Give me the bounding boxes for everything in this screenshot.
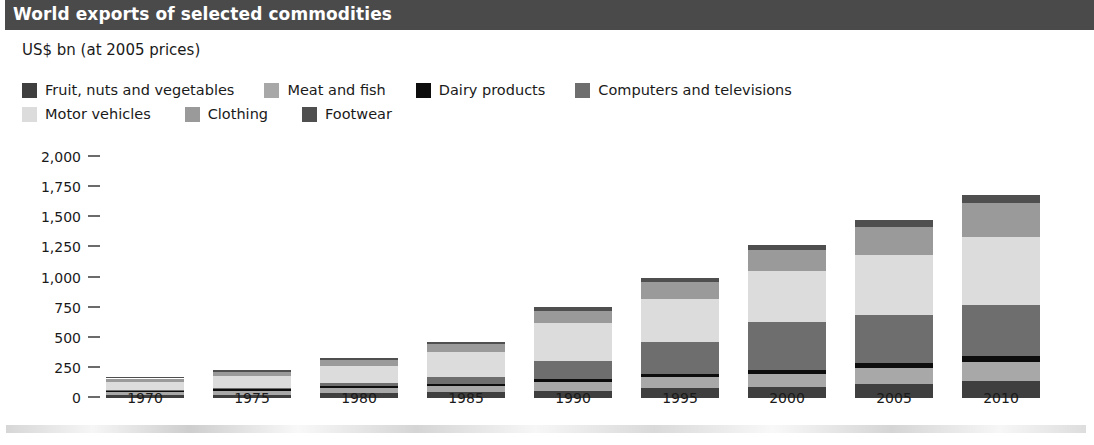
bar-column[interactable]: 1995 — [641, 157, 719, 398]
bar-column[interactable]: 2000 — [748, 157, 826, 398]
bar-segment[interactable] — [962, 237, 1040, 304]
bar-column[interactable]: 1980 — [320, 157, 398, 398]
y-axis-tick-mark — [88, 306, 100, 308]
bar-segment[interactable] — [320, 358, 398, 360]
bar-column[interactable]: 1990 — [534, 157, 612, 398]
bar-segment[interactable] — [534, 323, 612, 360]
bar-segment[interactable] — [320, 383, 398, 387]
bar-stack — [106, 157, 184, 398]
y-axis-tick: 500 — [54, 331, 100, 345]
bar-segment[interactable] — [641, 282, 719, 299]
bar-stack — [641, 157, 719, 398]
bar-segment[interactable] — [213, 372, 291, 376]
legend-item[interactable]: Clothing — [185, 102, 268, 126]
title-bar: World exports of selected commodities — [0, 0, 1094, 30]
bar-segment[interactable] — [641, 342, 719, 373]
legend-item[interactable]: Dairy products — [416, 78, 546, 102]
bar-segment[interactable] — [855, 255, 933, 315]
y-axis-tick-mark — [88, 366, 100, 368]
legend-item[interactable]: Computers and televisions — [575, 78, 792, 102]
y-axis-tick-mark — [88, 276, 100, 278]
legend-item[interactable]: Fruit, nuts and vegetables — [22, 78, 234, 102]
bars-area: 197019751980198519901995200020052010 — [102, 150, 1084, 410]
bar-segment[interactable] — [855, 368, 933, 384]
bar-column[interactable]: 1970 — [106, 157, 184, 398]
bar-column[interactable]: 2010 — [962, 157, 1040, 398]
bar-segment[interactable] — [106, 377, 184, 378]
bar-stack — [427, 157, 505, 398]
legend-label: Motor vehicles — [45, 102, 151, 126]
bar-column[interactable]: 1985 — [427, 157, 505, 398]
bar-segment[interactable] — [962, 356, 1040, 362]
bar-segment[interactable] — [427, 344, 505, 352]
bar-segment[interactable] — [855, 363, 933, 368]
legend-swatch-icon — [416, 83, 431, 98]
bar-segment[interactable] — [748, 245, 826, 250]
x-axis-tick-label: 2005 — [855, 390, 933, 406]
bar-column[interactable]: 1975 — [213, 157, 291, 398]
legend-item[interactable]: Motor vehicles — [22, 102, 151, 126]
bar-stack — [534, 157, 612, 398]
bar-segment[interactable] — [748, 374, 826, 387]
legend-swatch-icon — [185, 107, 200, 122]
bar-segment[interactable] — [748, 322, 826, 370]
bar-segment[interactable] — [320, 366, 398, 382]
legend-item[interactable]: Meat and fish — [264, 78, 385, 102]
y-axis-tick-label: 2,000 — [41, 150, 81, 164]
bar-segment[interactable] — [962, 362, 1040, 381]
legend-swatch-icon — [22, 83, 37, 98]
bar-segment[interactable] — [427, 384, 505, 386]
bar-segment[interactable] — [641, 377, 719, 388]
bar-segment[interactable] — [427, 377, 505, 384]
legend-swatch-icon — [575, 83, 590, 98]
x-axis-tick-label: 2000 — [748, 390, 826, 406]
bar-segment[interactable] — [641, 374, 719, 377]
y-axis-tick-label: 1,250 — [41, 240, 81, 254]
y-axis-tick: 0 — [72, 391, 100, 405]
bar-segment[interactable] — [320, 386, 398, 388]
plot-area: 02505007501,0001,2501,5001,7502,000 1970… — [0, 150, 1094, 410]
y-axis-tick: 1,000 — [41, 271, 100, 285]
y-axis-tick-mark — [88, 185, 100, 187]
y-axis: 02505007501,0001,2501,5001,7502,000 — [0, 150, 100, 400]
chart-subtitle: US$ bn (at 2005 prices) — [22, 41, 200, 59]
bar-segment[interactable] — [748, 271, 826, 322]
bar-segment[interactable] — [106, 382, 184, 391]
legend-item[interactable]: Footwear — [302, 102, 392, 126]
y-axis-tick-label: 500 — [54, 331, 81, 345]
y-axis-tick-mark — [88, 396, 100, 398]
bar-segment[interactable] — [534, 311, 612, 324]
bar-segment[interactable] — [962, 305, 1040, 357]
x-axis-tick-label: 1970 — [106, 390, 184, 406]
y-axis-tick-label: 250 — [54, 361, 81, 375]
bar-segment[interactable] — [427, 342, 505, 344]
legend-row: Fruit, nuts and vegetablesMeat and fishD… — [22, 78, 1072, 102]
bar-segment[interactable] — [213, 370, 291, 371]
bar-segment[interactable] — [748, 250, 826, 271]
y-axis-tick-mark — [88, 215, 100, 217]
y-axis-tick-label: 750 — [54, 301, 81, 315]
bar-segment[interactable] — [534, 307, 612, 310]
bar-segment[interactable] — [534, 379, 612, 382]
bar-segment[interactable] — [855, 220, 933, 227]
bar-segment[interactable] — [641, 299, 719, 342]
chart-legend: Fruit, nuts and vegetablesMeat and fishD… — [22, 78, 1072, 126]
y-axis-tick: 1,250 — [41, 240, 100, 254]
bar-segment[interactable] — [962, 203, 1040, 237]
x-axis-tick-label: 1980 — [320, 390, 398, 406]
bar-segment[interactable] — [855, 227, 933, 255]
x-axis-tick-label: 1975 — [213, 390, 291, 406]
bar-segment[interactable] — [320, 360, 398, 366]
title-bar-accent — [0, 0, 5, 30]
bar-segment[interactable] — [748, 370, 826, 374]
bar-segment[interactable] — [641, 278, 719, 282]
bar-segment[interactable] — [213, 376, 291, 388]
bar-segment[interactable] — [427, 352, 505, 376]
bar-segment[interactable] — [106, 379, 184, 382]
footer-artifact — [0, 424, 1094, 436]
bar-segment[interactable] — [962, 195, 1040, 203]
bar-stack — [748, 157, 826, 398]
bar-column[interactable]: 2005 — [855, 157, 933, 398]
bar-segment[interactable] — [855, 315, 933, 363]
bar-segment[interactable] — [534, 361, 612, 379]
